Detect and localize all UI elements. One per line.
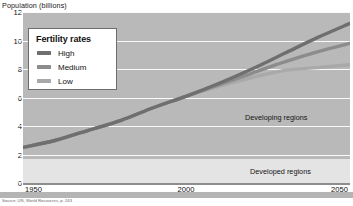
legend-swatch-icon bbox=[37, 51, 51, 56]
legend-items: HighMediumLow bbox=[29, 47, 116, 87]
y-tick-mark bbox=[18, 11, 23, 12]
y-tick-mark bbox=[18, 154, 23, 155]
y-tick-mark bbox=[18, 40, 23, 41]
annotation-developed-regions: Developed regions bbox=[250, 167, 311, 176]
legend-swatch-icon bbox=[37, 65, 51, 70]
legend-item-low[interactable]: Low bbox=[37, 75, 116, 87]
legend-item-high[interactable]: High bbox=[37, 47, 116, 59]
legend-item-label: Low bbox=[58, 77, 73, 86]
population-projection-chart: Population (billions) 024681012 19502000… bbox=[0, 0, 353, 206]
y-tick-mark bbox=[18, 68, 23, 69]
y-tick-mark bbox=[18, 97, 23, 98]
annotation-developing-regions: Developing regions bbox=[245, 113, 307, 122]
legend-item-label: High bbox=[58, 49, 74, 58]
legend-title: Fertility rates bbox=[36, 34, 116, 44]
source-caption: Source: UN, World Resources, p. 243 bbox=[2, 198, 72, 203]
legend-item-label: Medium bbox=[58, 63, 86, 72]
legend: Fertility rates HighMediumLow bbox=[28, 28, 117, 90]
y-tick-mark bbox=[18, 125, 23, 126]
legend-swatch-icon bbox=[37, 79, 51, 84]
legend-item-medium[interactable]: Medium bbox=[37, 61, 116, 73]
